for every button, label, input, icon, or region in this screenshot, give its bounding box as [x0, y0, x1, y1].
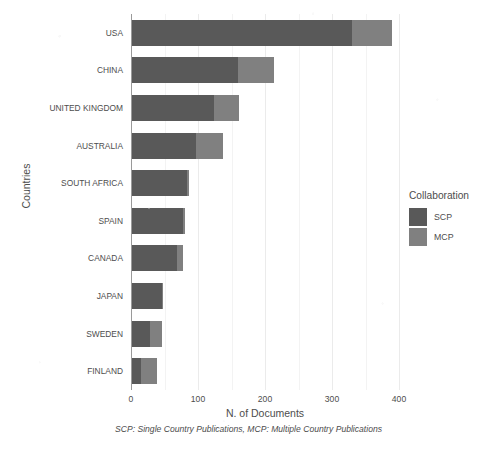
- bar-segment-scp[interactable]: [131, 321, 150, 347]
- x-tick-label: 200: [245, 394, 285, 404]
- y-tick-label: FINLAND: [87, 366, 123, 376]
- y-axis-title: Countries: [20, 126, 32, 246]
- legend-swatch-mcp: [409, 228, 427, 246]
- gridline-major: [399, 14, 400, 390]
- legend-item-mcp[interactable]: MCP: [409, 227, 495, 247]
- y-tick-label: SOUTH AFRICA: [61, 178, 123, 188]
- bar-segment-mcp[interactable]: [238, 57, 274, 83]
- plot-panel: [131, 14, 399, 390]
- bar-row[interactable]: [131, 283, 163, 309]
- bar-row[interactable]: [131, 245, 183, 271]
- bar-segment-scp[interactable]: [131, 245, 177, 271]
- legend-swatch-scp: [409, 208, 427, 226]
- y-tick-label: USA: [106, 28, 123, 38]
- bar-segment-mcp[interactable]: [196, 133, 223, 159]
- legend: Collaboration SCPMCP: [409, 190, 495, 247]
- legend-label: MCP: [434, 232, 454, 242]
- bar-row[interactable]: [131, 358, 157, 384]
- y-tick-label: CANADA: [88, 253, 123, 263]
- bar-row[interactable]: [131, 57, 274, 83]
- bar-row[interactable]: [131, 95, 239, 121]
- bar-segment-scp[interactable]: [131, 170, 187, 196]
- x-tick-label: 400: [379, 394, 419, 404]
- y-tick-label: AUSTRALIA: [76, 141, 123, 151]
- bar-segment-mcp[interactable]: [183, 208, 185, 234]
- x-tick-label: 100: [178, 394, 218, 404]
- bar-segment-scp[interactable]: [131, 133, 196, 159]
- bar-segment-mcp[interactable]: [162, 283, 163, 309]
- bar-segment-scp[interactable]: [131, 20, 352, 46]
- bar-row[interactable]: [131, 321, 162, 347]
- gridline-minor: [366, 14, 367, 390]
- bar-segment-scp[interactable]: [131, 208, 183, 234]
- bar-segment-scp[interactable]: [131, 95, 214, 121]
- bar-segment-scp[interactable]: [131, 283, 162, 309]
- legend-label: SCP: [434, 212, 452, 222]
- bar-segment-mcp[interactable]: [187, 170, 189, 196]
- x-tick-label: 0: [111, 394, 151, 404]
- bar-segment-mcp[interactable]: [214, 95, 239, 121]
- bar-row[interactable]: [131, 208, 185, 234]
- gridline-major: [332, 14, 333, 390]
- bar-row[interactable]: [131, 170, 189, 196]
- chart-figure: Countries USACHINAUNITED KINGDOMAUSTRALI…: [0, 0, 497, 453]
- legend-title: Collaboration: [409, 190, 495, 201]
- legend-item-scp[interactable]: SCP: [409, 207, 495, 227]
- bar-segment-mcp[interactable]: [141, 358, 157, 384]
- y-tick-label: SPAIN: [98, 216, 123, 226]
- legend-items: SCPMCP: [409, 207, 495, 247]
- chart-caption: SCP: Single Country Publications, MCP: M…: [0, 424, 497, 434]
- bar-segment-scp[interactable]: [131, 57, 238, 83]
- y-tick-label: UNITED KINGDOM: [49, 103, 123, 113]
- bar-row[interactable]: [131, 133, 223, 159]
- y-tick-label: CHINA: [97, 65, 123, 75]
- y-tick-label: SWEDEN: [86, 329, 123, 339]
- x-tick-label: 300: [312, 394, 352, 404]
- gridline-minor: [299, 14, 300, 390]
- bar-segment-mcp[interactable]: [352, 20, 392, 46]
- y-tick-label: JAPAN: [97, 291, 123, 301]
- bar-segment-scp[interactable]: [131, 358, 141, 384]
- bar-segment-mcp[interactable]: [177, 245, 183, 271]
- x-axis-title: N. of Documents: [131, 407, 399, 419]
- bar-segment-mcp[interactable]: [150, 321, 162, 347]
- bar-row[interactable]: [131, 20, 392, 46]
